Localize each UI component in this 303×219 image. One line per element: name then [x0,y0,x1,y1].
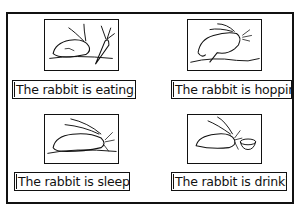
rabbit-drinking-icon [188,115,261,163]
rabbit-sleeping-icon [45,115,118,163]
illustration-rabbit-eating [44,19,119,71]
illustration-rabbit-sleeping [44,114,119,164]
caption-drinking: The rabbit is drinking [171,172,287,191]
caption-hopping: The rabbit is hopping. [171,80,292,99]
rabbit-hopping-icon [188,20,261,70]
illustration-rabbit-drinking [187,114,262,164]
rabbit-eating-icon [45,20,118,70]
caption-eating: The rabbit is eating. [12,80,136,99]
illustration-rabbit-hopping [187,19,262,71]
caption-sleeping: The rabbit is sleeping [14,172,130,191]
